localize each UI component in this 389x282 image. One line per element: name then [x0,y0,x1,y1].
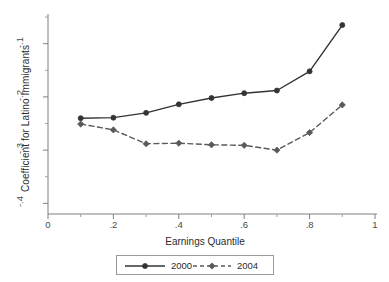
data-series-layer [78,23,346,154]
chart-legend: 2000 2004 [116,255,274,275]
data-point-2000 [209,95,214,100]
plot-area [0,0,389,282]
data-point-2004 [241,142,247,148]
data-point-2004 [176,140,182,146]
data-point-2000 [340,23,345,28]
data-point-2000 [144,110,149,115]
data-point-2000 [176,102,181,107]
chart-figure: Coefficient for Latino Immigrants Earnin… [0,0,389,282]
data-point-2000 [111,115,116,120]
legend-marker-2000 [143,264,148,269]
series-line-2000 [81,25,343,118]
legend-label-2004: 2004 [237,260,258,271]
data-point-2004 [208,142,214,148]
data-point-2000 [78,116,83,121]
data-point-2004 [143,141,149,147]
data-point-2004 [274,147,280,153]
data-point-2000 [307,69,312,74]
data-point-2000 [242,91,247,96]
data-point-2004 [110,127,116,133]
axis-lines [48,14,377,214]
data-point-2000 [274,88,279,93]
data-point-2004 [78,121,84,127]
legend-label-2000: 2000 [171,260,192,271]
legend-marker-2004 [209,263,215,269]
